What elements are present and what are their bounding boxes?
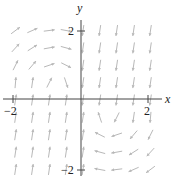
y-tick-label-2: 2 (68, 24, 74, 38)
vector-field-plot: x y −2 2 2 −2 (0, 0, 173, 178)
x-tick-label-2: 2 (144, 104, 150, 118)
y-tick-label-neg2: −2 (61, 163, 74, 177)
field-arrows (11, 25, 155, 175)
x-tick-label-neg2: −2 (4, 104, 17, 118)
arrowhead-icon (14, 77, 17, 80)
arrowhead-icon (149, 120, 152, 123)
y-axis-label: y (76, 1, 83, 15)
x-axis-label: x (164, 92, 171, 106)
